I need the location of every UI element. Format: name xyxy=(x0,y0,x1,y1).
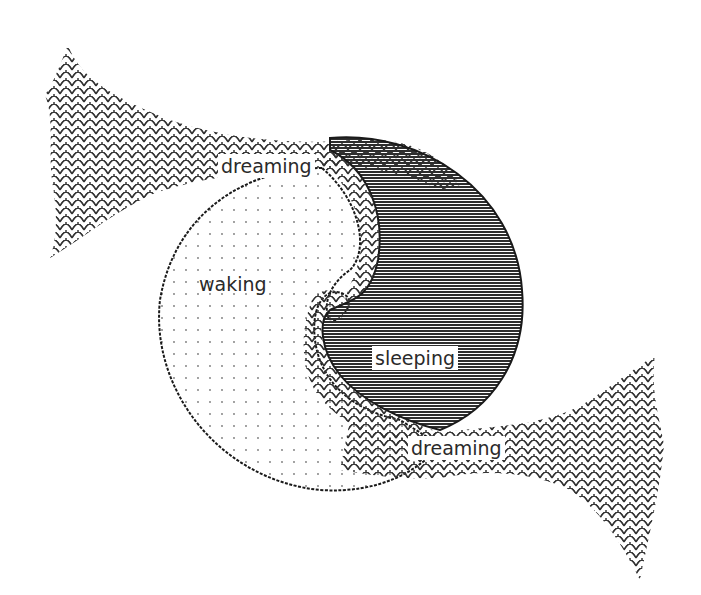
label-sleeping: sleeping xyxy=(372,346,458,370)
label-waking: waking xyxy=(196,272,270,296)
label-dreaming-bottom: dreaming xyxy=(408,436,505,460)
diagram-canvas: dreaming waking sleeping dreaming xyxy=(0,0,701,595)
spiral-diagram xyxy=(0,0,701,595)
label-dreaming-top: dreaming xyxy=(218,154,315,178)
